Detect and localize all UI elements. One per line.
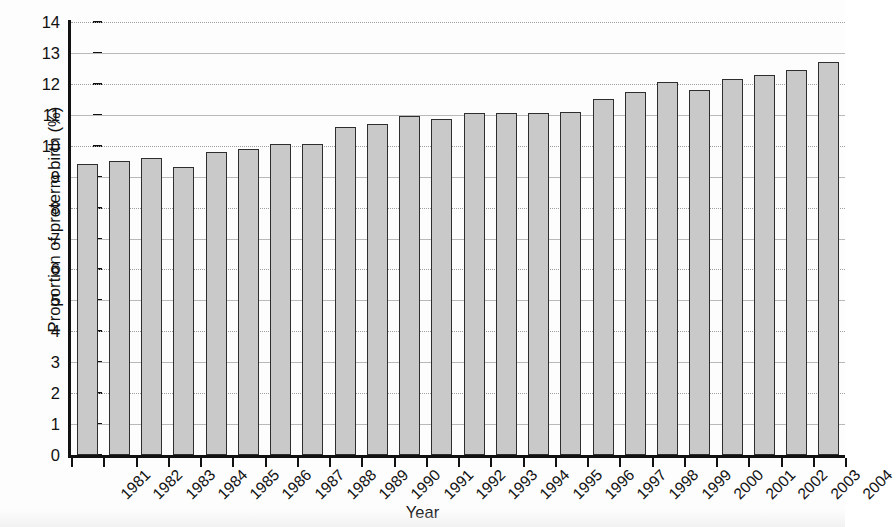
bar [141,158,162,455]
bar [109,161,130,455]
y-axis-tick-label: 8 [30,199,60,216]
bar [335,127,356,455]
bar [431,119,452,455]
y-axis-tick-label: 2 [30,385,60,402]
x-axis-tick-label: 1996 [601,466,638,503]
bar [657,82,678,455]
x-axis-tick-label: 1989 [375,466,412,503]
y-axis-tick-labels: 01234567891011121314 [30,0,60,527]
x-axis-tick-label: 1982 [149,466,186,503]
x-axis-tick-label: 2004 [859,466,896,503]
y-axis-tick-label: 11 [30,107,60,124]
bar [754,75,775,455]
y-axis-tick-label: 7 [30,230,60,247]
bar [238,149,259,455]
bar [399,116,420,455]
y-axis-tick-label: 1 [30,416,60,433]
y-axis-tick-label: 9 [30,168,60,185]
bar [464,113,485,455]
x-axis-tick-label: 2001 [762,466,799,503]
bar [302,144,323,455]
gridline [71,53,845,54]
y-axis-tick-label: 4 [30,323,60,340]
y-axis-tick-label: 3 [30,354,60,371]
x-axis-tick-label: 1992 [472,466,509,503]
bar [625,92,646,455]
plot-area [71,22,845,455]
bar [560,112,581,455]
bar [206,152,227,455]
x-axis-tick-label: 2000 [730,466,767,503]
y-axis-tick-label: 12 [30,76,60,93]
x-axis-tick-label: 1985 [246,466,283,503]
bar [593,99,614,455]
bar [367,124,388,455]
x-axis-tick-label: 1998 [665,466,702,503]
x-axis-tick-label: 1984 [214,466,251,503]
y-axis-tick-label: 5 [30,292,60,309]
x-axis-tick-label: 1981 [117,466,154,503]
x-axis-tick-label: 1994 [536,466,573,503]
x-axis-tick-label: 2003 [827,466,864,503]
bar [173,167,194,455]
bar [528,113,549,455]
bar [722,79,743,455]
x-axis-tick-label: 1983 [182,466,219,503]
bar [77,164,98,455]
x-axis-tick-label: 1986 [278,466,315,503]
bar [786,70,807,455]
bar [689,90,710,455]
x-axis-tick-label: 1988 [343,466,380,503]
bar [270,144,291,455]
x-axis-tick-label: 1997 [633,466,670,503]
x-axis-title: Year [0,503,845,522]
bar [496,113,517,455]
y-axis-tick-label: 10 [30,137,60,154]
x-axis-tick-label: 1995 [569,466,606,503]
x-axis-tick-label: 2002 [794,466,831,503]
x-axis-tick-label: 1991 [440,466,477,503]
y-axis-tick-label: 0 [30,447,60,464]
y-axis-tick-label: 6 [30,261,60,278]
x-axis-tick-label: 1999 [698,466,735,503]
y-axis-tick-label: 13 [30,45,60,62]
x-axis-tick-label: 1987 [311,466,348,503]
x-axis-tick-label: 1993 [504,466,541,503]
y-axis-tick-label: 14 [30,14,60,31]
bar [818,62,839,455]
gridline [71,22,845,23]
x-axis-tick-label: 1990 [407,466,444,503]
